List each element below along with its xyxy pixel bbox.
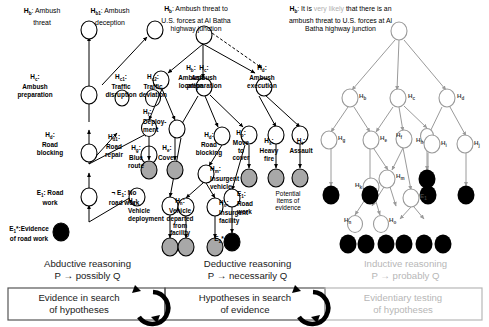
label-mid-road-blocking: Hd: Road blocking xyxy=(193,131,225,156)
label-right-Hd: Hd xyxy=(457,92,464,101)
right-tree-edges xyxy=(331,40,466,219)
node-right-Hb[interactable] xyxy=(342,89,358,107)
node-right-ev-11[interactable] xyxy=(435,235,452,254)
node-right-Hc[interactable] xyxy=(390,89,406,107)
node-mid-evidence-4[interactable] xyxy=(268,169,284,187)
node-right-Hm[interactable] xyxy=(379,170,395,188)
label-mid-vehicle-departed: Hn: Vehicle departed from facility xyxy=(160,197,200,236)
node-right-Hg[interactable] xyxy=(321,131,337,149)
label-left-Hc: Hc: Ambush preparation xyxy=(4,73,66,98)
label-mid-heavy-fire: Hs: Heavy fire xyxy=(256,137,282,162)
header-middle-text: : Ambush threat to U.S. forces at Al Bat… xyxy=(161,5,230,32)
node-mid-evidence-2[interactable] xyxy=(167,161,183,179)
label-right-Hj: Hj xyxy=(474,139,480,148)
node-right-Hd[interactable] xyxy=(439,89,455,107)
node-right-ev-9[interactable] xyxy=(396,235,413,254)
node-right-He[interactable] xyxy=(363,131,379,149)
node-right-E1[interactable] xyxy=(403,189,419,207)
header-left-ambush-deception: Hb1: Ambush deception xyxy=(76,7,144,27)
caption-hypotheses-in-search: Hypotheses in search of evidence xyxy=(175,292,315,315)
label-right-Hg: Hg xyxy=(338,134,345,143)
header-right-text-a: : It is xyxy=(297,5,313,12)
node-right-Hj[interactable] xyxy=(457,135,473,153)
node-mid-evidence-6[interactable] xyxy=(162,238,178,256)
header-left-ambush-threat: Hb: Ambush threat xyxy=(10,7,74,27)
mode-deductive: Deductive reasoning P → necessarily Q xyxy=(170,258,325,281)
node-E1[interactable] xyxy=(81,188,97,206)
node-right-Hi[interactable] xyxy=(424,135,440,153)
label-right-He: He xyxy=(380,134,387,143)
label-right-Hc: Hc xyxy=(408,92,415,101)
label-left-E1-star: E1*:Evidence of road work xyxy=(0,225,60,243)
label-mid-deployment: Hf: Deploy- ment xyxy=(143,108,179,133)
node-mid-evidence-7[interactable] xyxy=(178,238,194,256)
node-right-ev-10[interactable] xyxy=(416,235,433,254)
label-right-Hk: Hk xyxy=(355,181,362,190)
node-right-ev-6[interactable] xyxy=(340,235,357,254)
label-mid-road-work: E1: Road work xyxy=(237,190,263,215)
label-mid-insurgent-vehicle: Hm: Insurgent vehicle xyxy=(210,165,252,190)
header-middle-ambush-threat: Hb: Ambush threat to U.S. forces at Al B… xyxy=(146,5,246,33)
label-mid-assault: Ht: Assault xyxy=(287,137,315,155)
label-left-Hd: Hd: Road blocking xyxy=(24,131,76,156)
header-right-hypothesis: Hb: It is very likely that there is an a… xyxy=(263,5,418,33)
header-right-text-faint: very likely xyxy=(314,5,344,12)
node-right-ev-2[interactable] xyxy=(362,186,379,205)
node-right-ev-7[interactable] xyxy=(358,235,375,254)
label-right-Hh: Hh xyxy=(416,136,423,145)
label-mid-E1-star: E1* xyxy=(207,235,231,245)
figure-root: Hb: Ambush threat Hb1: Ambush deception … xyxy=(0,0,489,327)
label-right-Hn: Hn xyxy=(344,216,351,225)
mode-inductive: Inductive reasoning P → probably Q xyxy=(328,258,483,281)
label-mid-ambush-preparation-real: Hc: Ambush preparation xyxy=(176,64,232,89)
label-mid-move-to-cover: Hp: Move to cover xyxy=(229,129,253,161)
node-mid-evidence-5[interactable] xyxy=(292,169,308,187)
label-right-Hi: Hi xyxy=(441,139,447,148)
node-right-Ho[interactable] xyxy=(374,216,389,233)
node-right-ev-1[interactable] xyxy=(323,186,340,205)
caption-evidence-in-search: Evidence in search of hypotheses xyxy=(12,292,146,315)
label-mid-potential-evidence: Potential items of evidence xyxy=(261,190,315,212)
label-right-E1: E1 xyxy=(420,192,427,201)
label-right-Hb: Hb xyxy=(359,92,366,101)
node-right-ev-8[interactable] xyxy=(378,235,395,254)
caption-evidentiary-testing: Evidentiary testing of hypotheses xyxy=(332,292,474,315)
mode-abductive: Abductive reasoning P → possibly Q xyxy=(10,258,165,281)
label-right-Hf: Hf xyxy=(396,131,402,140)
label-left-E1: E1: Road work xyxy=(24,189,76,207)
header-left-ambush-threat-text: : Ambush threat xyxy=(32,7,61,26)
label-mid-cover: He: Cover xyxy=(154,144,180,162)
label-mid-blue-route: Hg: Blue route xyxy=(122,144,150,169)
label-mid-ambush-execution: Hd: Ambush execution xyxy=(238,64,286,89)
label-right-Hm: Hm xyxy=(396,172,405,181)
label-right-Ho: Ho xyxy=(389,216,396,225)
node-right-ev-5[interactable] xyxy=(458,186,475,205)
